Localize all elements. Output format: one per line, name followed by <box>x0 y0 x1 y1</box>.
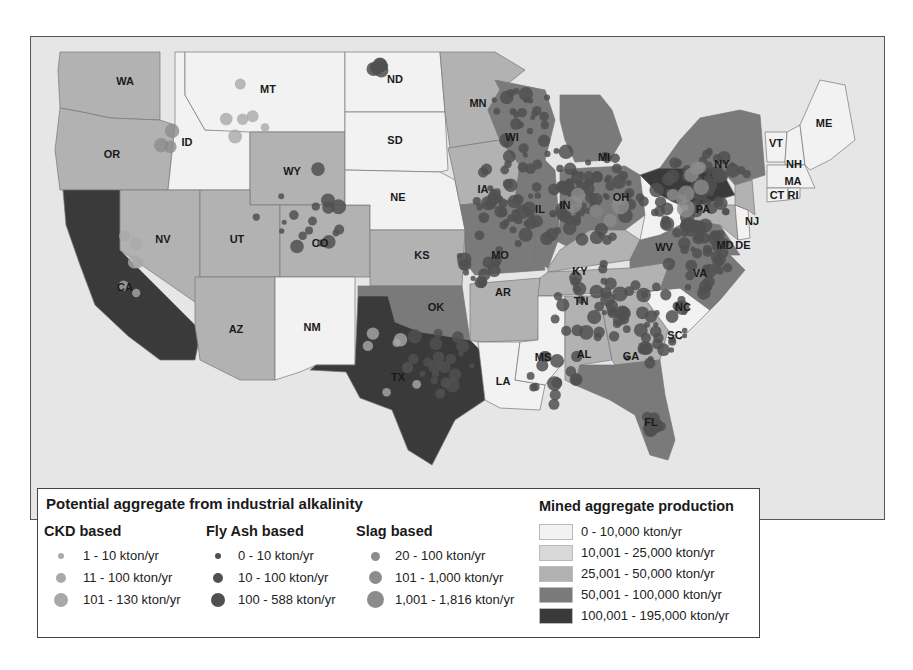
flyash-facility-dot <box>493 108 500 115</box>
flyash-facility-dot <box>305 226 313 234</box>
state-label-pa: PA <box>696 203 711 215</box>
flyash-facility-dot <box>690 246 695 251</box>
legend-mined-title: Mined aggregate production <box>539 498 734 514</box>
flyash-facility-dot <box>612 163 622 173</box>
flyash-facility-dot <box>590 231 603 244</box>
flyash-facility-dot <box>553 227 561 235</box>
flyash-facility-dot <box>594 327 605 338</box>
flyash-facility-dot <box>471 276 476 281</box>
slag-facility-dot <box>677 200 695 218</box>
state-label-vt: VT <box>769 137 783 149</box>
flyash-facility-dot <box>688 226 695 233</box>
state-label-ok: OK <box>428 301 445 313</box>
flyash-facility-dot <box>669 157 680 168</box>
flyash-facility-dot <box>662 173 675 186</box>
legend-ckd-item: 101 - 130 kton/yr <box>83 590 181 610</box>
ckd-facility-dot <box>367 327 379 339</box>
state-label-tx: TX <box>391 371 406 383</box>
flyash-facility-dot <box>611 154 620 163</box>
flyash-facility-dot <box>626 180 632 186</box>
flyash-facility-dot <box>279 228 284 233</box>
state-label-sd: SD <box>387 134 402 146</box>
flyash-facility-dot <box>590 285 604 299</box>
slag-facility-dot <box>693 180 709 196</box>
state-label-ri: RI <box>788 189 799 201</box>
legend-ckd-heading: CKD based <box>44 523 121 539</box>
flyash-facility-dot <box>623 325 631 333</box>
ckd-facility-dot <box>382 388 391 397</box>
flyash-facility-dot <box>652 283 661 292</box>
legend-ckd-item: 1 - 10 kton/yr <box>83 546 159 566</box>
flyash-facility-dot <box>649 183 664 198</box>
state-label-oh: OH <box>613 191 630 203</box>
flyash-facility-dot <box>308 217 317 226</box>
legend-mined-item: 25,001 - 50,000 kton/yr <box>581 564 715 584</box>
flyash-facility-dot <box>532 182 542 192</box>
flyash-facility-dot <box>528 194 533 199</box>
state-label-ne: NE <box>390 191 405 203</box>
flyash-facility-dot <box>446 354 456 364</box>
ckd-facility-dot <box>119 230 130 241</box>
flyash-facility-dot <box>289 210 299 220</box>
flyash-facility-dot <box>298 232 307 241</box>
flyash-facility-dot <box>515 240 522 247</box>
flyash-facility-dot <box>523 153 528 158</box>
flyash-facility-dot <box>481 196 495 210</box>
flyash-facility-dot <box>566 178 574 186</box>
flyash-facility-dot <box>572 325 584 337</box>
flyash-facility-dot <box>432 370 439 377</box>
flyash-facility-dot <box>457 253 471 267</box>
slag-facility-dot <box>154 138 168 152</box>
flyash-facility-dot <box>680 245 689 254</box>
legend-swatch-class0 <box>539 524 573 540</box>
flyash-facility-dot <box>535 192 541 198</box>
flyash-facility-dot <box>503 219 510 226</box>
flyash-facility-dot <box>697 286 711 300</box>
flyash-facility-dot <box>529 384 537 392</box>
flyash-facility-dot <box>510 226 517 233</box>
ckd-facility-dot <box>228 130 242 144</box>
flyash-facility-dot <box>654 206 665 217</box>
slag-facility-dot <box>690 162 704 176</box>
flyash-facility-dot <box>576 233 589 246</box>
legend-slag-item: 101 - 1,000 kton/yr <box>395 568 503 588</box>
flyash-facility-dot <box>598 264 607 273</box>
flyash-facility-dot <box>645 310 657 322</box>
flyash-facility-dot <box>550 354 564 368</box>
slag-facility-dot <box>165 124 179 138</box>
flyash-facility-dot <box>492 97 497 102</box>
flyash-facility-dot <box>419 371 425 377</box>
flyash-facility-dot <box>530 115 535 120</box>
flyash-facility-dot <box>434 329 443 338</box>
flyash-facility-dot <box>544 94 550 100</box>
flyash-facility-dot <box>608 310 613 315</box>
flyash-facility-dot <box>478 167 488 177</box>
flyash-facility-dot <box>531 215 543 227</box>
state-label-nv: NV <box>155 233 171 245</box>
flyash-facility-dot <box>519 228 533 242</box>
flyash-facility-dot <box>498 208 507 217</box>
flyash-facility-dot <box>513 88 520 95</box>
flyash-facility-dot <box>499 198 508 207</box>
state-label-sc: SC <box>667 329 682 341</box>
flyash-facility-dot <box>669 347 674 352</box>
flyash-facility-dot <box>604 278 616 290</box>
flyash-facility-dot <box>544 151 550 157</box>
flyash-facility-dot <box>554 292 562 300</box>
state-fl <box>575 360 675 460</box>
flyash-facility-dot <box>660 289 671 300</box>
state-label-co: CO <box>312 237 329 249</box>
slag-facility-dot <box>589 204 603 218</box>
legend-slag-item: 1,001 - 1,816 kton/yr <box>395 590 514 610</box>
flyash-facility-dot <box>693 234 699 240</box>
legend-ckd-dot-medium <box>56 573 66 583</box>
state-label-ct: CT <box>770 189 785 201</box>
flyash-facility-dot <box>525 163 536 174</box>
flyash-facility-dot <box>602 310 607 315</box>
flyash-facility-dot <box>605 181 615 191</box>
flyash-facility-dot <box>706 148 712 154</box>
legend-industrial-title: Potential aggregate from industrial alka… <box>46 495 363 512</box>
state-label-la: LA <box>496 375 511 387</box>
legend-ckd-item: 11 - 100 kton/yr <box>83 568 172 588</box>
flyash-facility-dot <box>527 372 535 380</box>
